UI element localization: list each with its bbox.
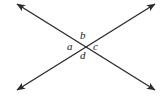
angle-label-d: d [80, 50, 86, 61]
angle-label-a: a [67, 41, 73, 52]
angle-label-b: b [80, 30, 86, 41]
diagram-canvas [0, 0, 165, 96]
angle-label-c: c [93, 41, 98, 52]
angle-diagram-figure: a b c d [0, 0, 165, 96]
